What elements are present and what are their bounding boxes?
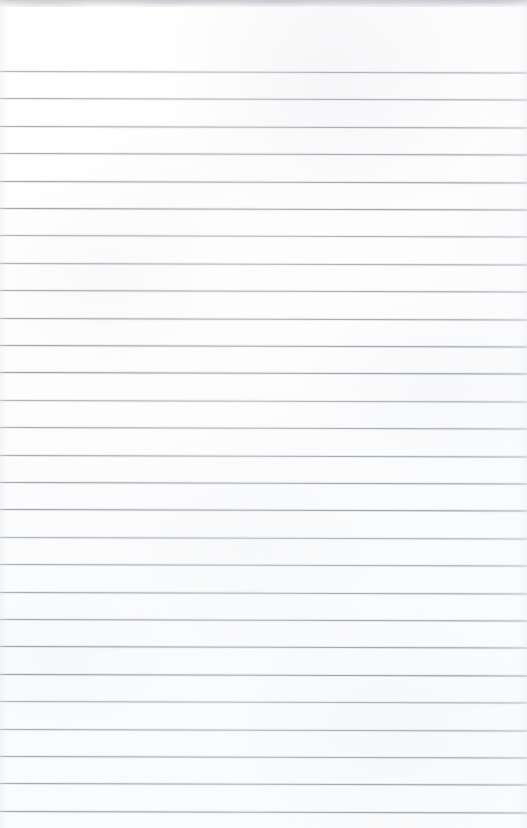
paper-background: [0, 0, 527, 828]
scanned-page: [0, 0, 527, 828]
